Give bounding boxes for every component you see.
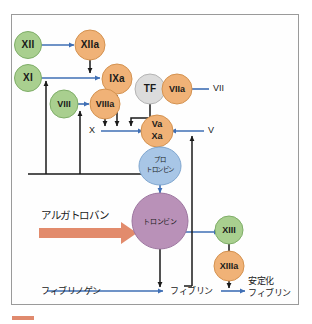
node-viiia-shape [90, 89, 120, 119]
node-xi-shape [15, 65, 42, 92]
node-xiii-shape [215, 216, 243, 244]
label-stabilized-fibrin-line1: 安定化 [248, 276, 274, 287]
label-argatroban: アルガトロバン [41, 207, 109, 222]
corner-accent-mark [12, 316, 34, 320]
node-viia-shape [162, 74, 192, 104]
argatroban-block-arrow [39, 222, 137, 244]
label-factor-vii: VII [213, 83, 224, 93]
node-shapes [15, 30, 245, 281]
node-xii-shape [15, 32, 42, 59]
label-stabilized-fibrin-line2: フィブリン [248, 288, 291, 299]
label-fibrin: フィブリン [170, 284, 213, 297]
node-xiia-shape [75, 30, 105, 60]
label-fibrinogen: フィブリノゲン [41, 284, 101, 297]
diagram-canvas: XII XIIa XI IXa VIII VIIIa TF VIIa Va Xa… [0, 0, 312, 324]
node-vaxa-shape [141, 115, 173, 147]
node-viii-shape [50, 90, 78, 118]
node-tf-shape [135, 74, 165, 104]
node-thrombin-shape [132, 193, 188, 249]
label-factor-v: V [208, 125, 214, 135]
label-factor-x: X [89, 125, 95, 135]
node-prothrombin-shape [139, 147, 181, 185]
node-xiiia-shape [214, 251, 244, 281]
